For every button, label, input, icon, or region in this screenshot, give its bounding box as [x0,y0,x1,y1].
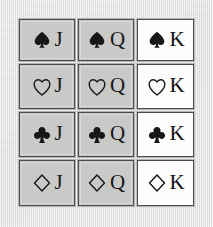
heart-outline-icon [31,75,52,98]
card-rank-label: Q [110,75,125,96]
card-rank-label: Q [110,172,125,193]
playing-card-diamond-q[interactable]: Q [78,160,134,206]
card-rank-label: K [169,123,184,144]
playing-card-heart-q[interactable]: Q [78,64,134,109]
card-rank-label: Q [110,29,125,50]
card-cell: Q [78,19,137,64]
card-cell: Q [78,112,137,160]
playing-card-diamond-k[interactable]: K [137,160,194,206]
card-rank-label: K [169,75,184,96]
spade-filled-icon [87,29,108,52]
card-rank-label: J [54,29,62,50]
spade-filled-icon [146,29,167,52]
playing-card-club-j[interactable]: J [19,112,75,157]
card-cell: K [137,160,197,209]
card-cell: K [137,112,197,160]
heart-outline-icon [87,75,108,98]
playing-card-spade-k[interactable]: K [137,19,194,61]
card-cell: K [137,19,197,64]
card-cell: J [19,64,78,112]
club-filled-icon [31,123,52,146]
diamond-outline-icon [87,172,108,195]
card-rank-label: J [54,123,62,144]
card-rank-label: K [169,29,184,50]
card-cell: J [19,160,78,209]
playing-card-heart-k[interactable]: K [137,64,194,109]
card-grid: JQKJQKJQKJQK [19,19,197,209]
heart-outline-icon [146,75,167,98]
card-rank-label: Q [110,123,125,144]
club-filled-icon [146,123,167,146]
playing-card-spade-j[interactable]: J [19,19,75,61]
card-grid-board: JQKJQKJQKJQK [0,0,213,227]
playing-card-diamond-j[interactable]: J [19,160,75,206]
playing-card-spade-q[interactable]: Q [78,19,134,61]
card-cell: Q [78,160,137,209]
playing-card-heart-j[interactable]: J [19,64,75,109]
card-cell: J [19,19,78,64]
playing-card-club-k[interactable]: K [137,112,194,157]
club-filled-icon [87,123,108,146]
card-cell: K [137,64,197,112]
card-rank-label: K [169,172,184,193]
spade-filled-icon [31,29,52,52]
card-rank-label: J [54,172,62,193]
card-cell: Q [78,64,137,112]
diamond-outline-icon [31,172,52,195]
playing-card-club-q[interactable]: Q [78,112,134,157]
card-rank-label: J [54,75,62,96]
card-cell: J [19,112,78,160]
diamond-outline-icon [146,172,167,195]
